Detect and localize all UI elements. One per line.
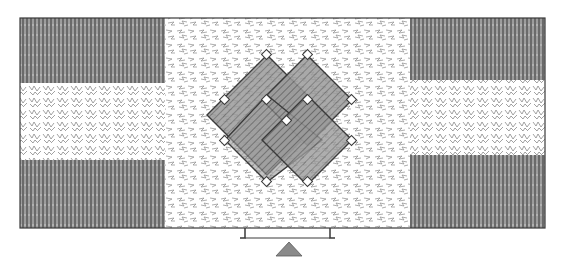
stand bbox=[240, 228, 335, 238]
illustration bbox=[0, 0, 563, 264]
right-panel bbox=[410, 18, 545, 228]
triangle-mark bbox=[276, 242, 302, 256]
left-panel bbox=[20, 18, 165, 228]
